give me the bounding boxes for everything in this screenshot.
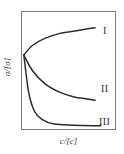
y-axis-label: σ/[σ] [2, 47, 12, 87]
plot-frame [21, 11, 116, 130]
x-axis-label: c/[c] [21, 136, 116, 146]
series-label-three: III [99, 117, 110, 127]
series-label-two: II [101, 84, 108, 94]
figure-container: I II III σ/[σ] c/[c] [0, 0, 124, 154]
series-label-one: I [103, 26, 107, 36]
